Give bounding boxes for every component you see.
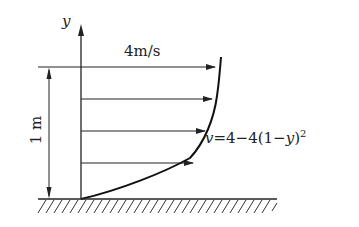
formula-rhs: =4−4(1−	[213, 129, 285, 147]
velocity-profile-diagram: y 4m/s 1 m v=4−4(1−y)2	[0, 0, 359, 227]
y-axis	[78, 24, 84, 199]
y-axis-arrow-icon	[78, 24, 84, 36]
velocity-arrows	[81, 67, 215, 163]
velocity-formula: v=4−4(1−y)2	[205, 128, 306, 147]
max-velocity-label: 4m/s	[124, 42, 161, 60]
height-label: 1 m	[27, 116, 45, 145]
formula-var: y	[286, 129, 294, 147]
y-axis-label: y	[62, 12, 70, 30]
formula-exponent: 2	[300, 128, 306, 139]
dimension-arrow-up-icon	[47, 68, 52, 80]
diagram-canvas	[0, 0, 359, 227]
height-dimension	[47, 68, 52, 199]
dimension-arrow-down-icon	[47, 187, 52, 199]
velocity-profile-curve	[81, 57, 221, 199]
ground-wall	[38, 199, 277, 213]
